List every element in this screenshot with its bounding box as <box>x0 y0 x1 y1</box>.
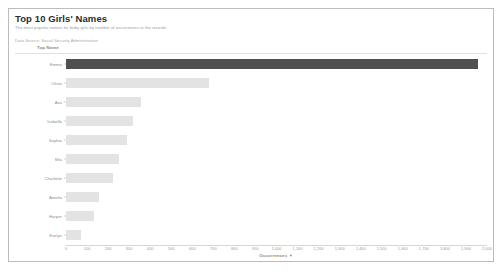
y-axis-tick-label[interactable]: Harper <box>15 213 62 218</box>
y-axis-tick-label[interactable]: Sophia <box>15 137 62 142</box>
x-axis-tick-label: 2,000 <box>482 246 492 251</box>
x-axis-title-label: Occurrences <box>259 253 287 258</box>
bar[interactable] <box>66 78 209 88</box>
bar-row[interactable]: Charlotte <box>15 168 487 187</box>
x-axis-tick-label: 700 <box>210 246 217 251</box>
x-axis-tick-label: 300 <box>126 246 133 251</box>
x-axis-tick-label: 1,700 <box>419 246 429 251</box>
header-block: Top 10 Girls' Names The most popular nam… <box>9 9 493 44</box>
bar[interactable] <box>66 59 478 69</box>
plot-area: EmmaOliviaAvaIsabellaSophiaMiaCharlotteA… <box>15 54 487 244</box>
bar-track <box>66 130 487 149</box>
source-note: Data Source: Social Security Administrat… <box>15 38 493 44</box>
bar[interactable] <box>66 192 99 202</box>
bar-row[interactable]: Amelia <box>15 187 487 206</box>
x-axis-tick-label: 1,000 <box>271 246 281 251</box>
bar-row[interactable]: Harper <box>15 206 487 225</box>
bar[interactable] <box>66 97 141 107</box>
x-axis-tick-label: 900 <box>252 246 259 251</box>
bar[interactable] <box>66 154 119 164</box>
bar-row[interactable]: Mia <box>15 149 487 168</box>
bar-row[interactable]: Evelyn <box>15 225 487 244</box>
y-axis-tick-label[interactable]: Emma <box>15 61 62 66</box>
bar-row[interactable]: Ava <box>15 92 487 111</box>
y-axis-tick-label[interactable]: Charlotte <box>15 175 62 180</box>
bar[interactable] <box>66 230 81 240</box>
bar[interactable] <box>66 135 127 145</box>
x-axis-tick-label: 1,400 <box>356 246 366 251</box>
x-axis-title[interactable]: Occurrences▼ <box>259 253 293 258</box>
y-axis-tick-label[interactable]: Amelia <box>15 194 62 199</box>
bar-track <box>66 206 487 225</box>
y-axis-field-header[interactable]: Top Name <box>37 45 59 50</box>
y-axis-tick-label[interactable]: Olivia <box>15 80 62 85</box>
visualization-card: Top 10 Girls' Names The most popular nam… <box>8 8 494 262</box>
x-axis: Occurrences▼ 010020030040050060070080090… <box>15 245 487 259</box>
y-axis-tick-label[interactable]: Evelyn <box>15 232 62 237</box>
bar-row[interactable]: Emma <box>15 54 487 73</box>
bar[interactable] <box>66 116 133 126</box>
bar-track <box>66 92 487 111</box>
bar-row[interactable]: Sophia <box>15 130 487 149</box>
y-axis-tick-label[interactable]: Ava <box>15 99 62 104</box>
x-axis-tick-label: 1,300 <box>335 246 345 251</box>
x-axis-tick-label: 1,200 <box>314 246 324 251</box>
y-axis-tick-label[interactable]: Isabella <box>15 118 62 123</box>
bar-track <box>66 149 487 168</box>
x-axis-tick-label: 1,800 <box>440 246 450 251</box>
x-axis-tick-label: 600 <box>189 246 196 251</box>
x-axis-tick-label: 1,100 <box>293 246 303 251</box>
bar-row[interactable]: Isabella <box>15 111 487 130</box>
bar-track <box>66 225 487 244</box>
chart-plate: Top Name EmmaOliviaAvaIsabellaSophiaMiaC… <box>15 45 487 257</box>
page-subtitle: The most popular names for baby girls by… <box>15 25 493 31</box>
bar[interactable] <box>66 173 113 183</box>
x-axis-tick-label: 500 <box>168 246 175 251</box>
bar-track <box>66 73 487 92</box>
bar-track <box>66 187 487 206</box>
x-axis-tick-label: 800 <box>231 246 238 251</box>
x-axis-tick-label: 0 <box>65 246 67 251</box>
bar-track <box>66 54 487 73</box>
bar-row[interactable]: Olivia <box>15 73 487 92</box>
x-axis-tick-label: 400 <box>147 246 154 251</box>
x-axis-tick-label: 1,900 <box>461 246 471 251</box>
bar-track <box>66 111 487 130</box>
x-axis-tick-label: 200 <box>105 246 112 251</box>
page-title: Top 10 Girls' Names <box>15 13 493 24</box>
x-axis-tick-label: 1,500 <box>377 246 387 251</box>
x-axis-tick-label: 100 <box>84 246 91 251</box>
bar-track <box>66 168 487 187</box>
sort-descending-icon[interactable]: ▼ <box>289 253 293 258</box>
bar[interactable] <box>66 211 94 221</box>
y-axis-tick-label[interactable]: Mia <box>15 156 62 161</box>
x-axis-tick-label: 1,600 <box>398 246 408 251</box>
